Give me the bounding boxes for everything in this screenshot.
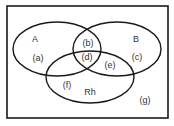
- region-d-label: (d): [82, 52, 93, 62]
- set-a-label: A: [32, 34, 38, 44]
- set-b-label: B: [133, 34, 139, 44]
- region-b-label: (b): [83, 38, 94, 48]
- region-c-label: (c): [132, 52, 143, 62]
- region-g-label: (g): [140, 95, 151, 105]
- region-f-label: (f): [63, 80, 72, 90]
- set-rh-label: Rh: [84, 87, 96, 97]
- set-b-ellipse: [73, 22, 161, 76]
- region-a-label: (a): [33, 53, 44, 63]
- set-a-ellipse: [13, 22, 101, 76]
- venn-diagram: A B Rh (a) (b) (c) (d) (e) (f) (g): [0, 0, 174, 126]
- region-e-label: (e): [105, 60, 116, 70]
